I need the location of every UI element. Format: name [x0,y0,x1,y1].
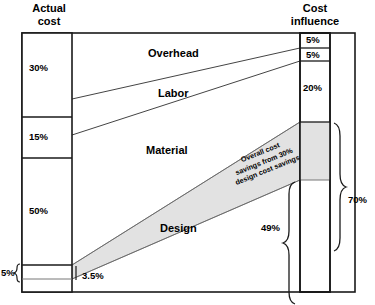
actual-segment-material-label: 50% [29,205,48,216]
actual-segment-overhead-label: 30% [29,62,48,73]
cost-influence-title: Cost influence [268,2,362,28]
influence-segment-material-label: 20% [303,82,322,93]
influence-segment-overhead-label: 5% [306,34,320,45]
actual-cost-title: Actual cost [10,2,88,28]
actual-segment-labor-label: 15% [29,131,48,142]
band-label-material: Material [146,144,188,157]
design-influence-bracket [334,123,346,251]
band-label-labor: Labor [158,87,189,100]
design-cost-inline-label: 3.5% [82,270,104,281]
band-label-overhead: Overhead [148,47,199,60]
remaining-influence-bracket [283,182,295,304]
actual-segment-design-label: 5% [1,267,15,278]
influence-segment-labor-label: 5% [306,49,320,60]
remaining-influence-label: 49% [261,222,280,233]
band-label-design: Design [160,222,197,235]
diagram-canvas: Actual cost Cost influence 30% 15% 50% 5… [0,0,375,305]
influence-segment-design-label: 70% [348,194,367,205]
